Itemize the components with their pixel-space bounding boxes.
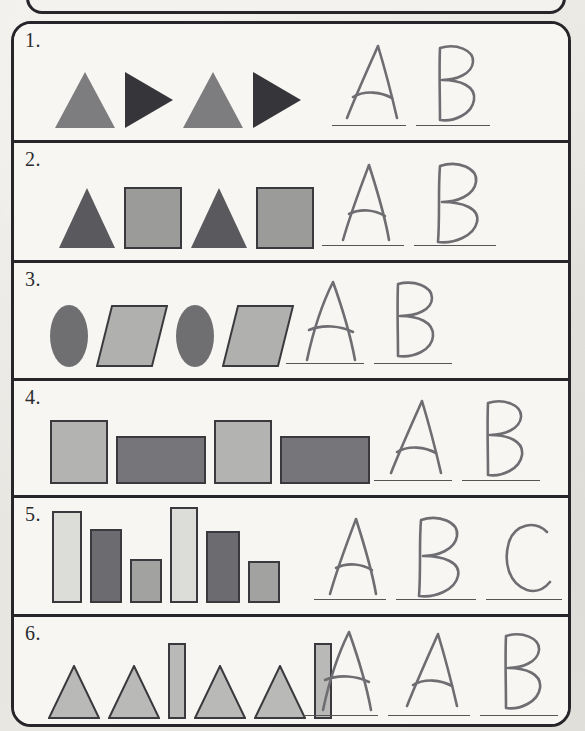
pattern-sequence [50,281,294,367]
shape-rectangle [206,531,240,603]
answer-line [486,599,562,600]
answer-blank[interactable] [286,278,374,370]
handwritten-answer-letter [405,514,477,602]
shape-rectangle [90,529,122,603]
answer-line [414,245,496,246]
shape-triangle-up [54,71,116,129]
answer-line [374,480,452,481]
problem-row: 2. [14,143,568,263]
answer-line [396,599,476,600]
shape-rectangle [50,420,108,484]
handwritten-answer-letter [495,516,563,602]
problem-number: 6. [25,622,41,645]
shape-triangle-up [182,71,244,129]
pattern-sequence [58,163,314,249]
answer-line [332,125,406,126]
answer-area [374,395,550,487]
shape-rectangle [214,420,272,484]
answer-blank[interactable] [304,630,388,722]
answer-line [314,599,386,600]
answer-line [480,715,558,716]
problem-number: 3. [25,268,41,291]
shape-triangle-right [252,71,302,129]
answer-area [286,278,462,370]
previous-section-box-partial [26,0,566,14]
pattern-sequence [48,633,332,719]
answer-blank[interactable] [388,630,480,722]
shape-triangle-up [108,665,160,719]
shape-triangle-up [190,187,248,249]
handwritten-answer-letter [488,628,560,716]
shape-parallelogram [222,305,294,367]
problem-row: 4. [14,381,568,498]
shape-rectangle [168,643,186,719]
problem-number: 2. [25,148,41,171]
handwritten-answer-letter [381,397,455,483]
problem-number: 5. [25,503,41,526]
answer-area [322,160,506,252]
pattern-sequence [54,43,302,129]
shape-triangle-up [48,665,100,719]
shape-rectangle [116,436,206,484]
shape-ellipse [50,305,88,367]
problem-number: 1. [25,29,41,52]
handwritten-answer-letter [293,280,367,366]
shape-rectangle [52,511,82,603]
answer-line [416,125,490,126]
answer-blank[interactable] [462,395,550,487]
answer-blank[interactable] [374,395,462,487]
problem-row: 3. [14,263,568,381]
answer-line [304,715,378,716]
shape-rectangle [130,559,162,603]
answer-blank[interactable] [414,160,506,252]
handwritten-answer-letter [337,42,411,128]
handwritten-answer-letter [422,40,494,128]
shape-rectangle [170,507,198,603]
answer-blank[interactable] [396,514,486,606]
handwritten-answer-letter [424,160,496,248]
answer-blank[interactable] [322,160,414,252]
answer-area [304,630,568,722]
answer-line [462,480,540,481]
worksheet-container: 1. 2. 3. 4. 5. 6. [11,21,571,727]
shape-rectangle [124,187,182,249]
problem-row: 6. [14,617,568,727]
handwritten-answer-letter [397,630,471,716]
shape-rectangle [256,187,314,249]
shape-triangle-right [124,71,174,129]
shape-parallelogram [96,305,168,367]
answer-line [322,245,404,246]
answer-blank[interactable] [374,278,462,370]
problem-row: 5. [14,498,568,617]
problem-row: 1. [14,24,568,143]
answer-line [286,363,364,364]
problem-number: 4. [25,386,41,409]
handwritten-answer-letter [382,278,454,366]
answer-blank[interactable] [332,40,416,132]
shape-triangle-up [194,665,246,719]
shape-ellipse [176,305,214,367]
handwritten-answer-letter [470,395,542,483]
pattern-sequence [50,398,370,484]
handwritten-answer-letter [331,162,405,248]
handwritten-answer-letter [318,516,392,602]
shape-triangle-up [254,665,306,719]
answer-area [332,40,500,132]
shape-triangle-up [58,187,116,249]
pattern-sequence [52,517,280,603]
answer-area [314,514,568,606]
handwritten-answer-letter [309,630,383,716]
answer-line [374,363,452,364]
shape-rectangle [248,561,280,603]
answer-blank[interactable] [416,40,500,132]
worksheet-page: 1. 2. 3. 4. 5. 6. [0,0,585,731]
answer-line [388,715,470,716]
answer-blank[interactable] [486,514,568,606]
shape-rectangle [280,436,370,484]
answer-blank[interactable] [314,514,396,606]
answer-blank[interactable] [480,630,568,722]
